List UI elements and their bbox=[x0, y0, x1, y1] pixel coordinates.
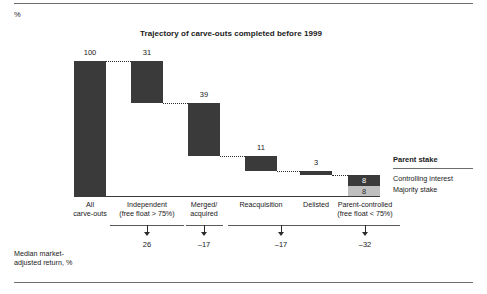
legend-title: Parent stake bbox=[393, 155, 438, 164]
bar-all-carve-outs bbox=[74, 61, 106, 196]
category-label-line1: Reacquisition bbox=[228, 201, 294, 210]
category-label-line2: (free float > 75%) bbox=[108, 210, 186, 219]
legend-rule bbox=[393, 168, 473, 169]
bar-value-independent: 31 bbox=[131, 48, 163, 57]
return-arrow-head-merged-acquired bbox=[201, 232, 207, 236]
return-value-independent: 26 bbox=[127, 240, 167, 249]
return-caption-line1: Median market- bbox=[14, 249, 104, 258]
connector-merged-to-reacquisition bbox=[220, 156, 245, 157]
category-label-line2: (free float < 75%) bbox=[326, 210, 404, 219]
return-arrow-head-independent bbox=[144, 232, 150, 236]
category-label-reacquisition: Reacquisition bbox=[228, 201, 294, 210]
bar-reacquisition bbox=[245, 156, 277, 171]
category-label-independent: Independent (free float > 75%) bbox=[108, 201, 186, 218]
bar-value-reacquisition: 11 bbox=[245, 143, 277, 152]
connector-all-to-independent bbox=[106, 61, 131, 62]
return-value-reacquisition-delisted: –17 bbox=[261, 240, 301, 249]
return-value-parent-controlled: –32 bbox=[345, 240, 385, 249]
bar-value-majority-stake: 8 bbox=[348, 187, 380, 196]
bar-merged-acquired bbox=[188, 103, 220, 156]
connector-reacquisition-to-delisted bbox=[277, 171, 300, 172]
category-label-line2: acquired bbox=[178, 210, 230, 219]
return-value-merged-acquired: –17 bbox=[184, 240, 224, 249]
bar-value-all-carve-outs: 100 bbox=[74, 48, 106, 57]
bar-value-delisted: 3 bbox=[300, 158, 332, 167]
connector-delisted-to-parent-controlled bbox=[332, 175, 348, 176]
bar-value-controlling-interest: 8 bbox=[348, 176, 380, 185]
bar-value-merged-acquired: 39 bbox=[188, 90, 220, 99]
chart-baseline bbox=[74, 196, 380, 197]
exhibit-figure: % Trajectory of carve-outs completed bef… bbox=[0, 0, 487, 294]
category-label-merged-acquired: Merged/ acquired bbox=[178, 201, 230, 218]
bar-delisted bbox=[300, 171, 332, 175]
legend-item-majority-stake: Majority stake bbox=[393, 185, 437, 194]
return-caption-line2: adjusted return, % bbox=[14, 258, 104, 267]
return-arrow-head-reacquisition-delisted bbox=[278, 232, 284, 236]
connector-independent-to-merged bbox=[163, 103, 188, 104]
legend-item-controlling-interest: Controlling interest bbox=[393, 174, 453, 183]
bar-independent bbox=[131, 61, 163, 103]
category-label-parent-controlled: Parent-controlled (free float < 75%) bbox=[326, 201, 404, 218]
return-arrow-head-parent-controlled bbox=[362, 232, 368, 236]
return-caption: Median market- adjusted return, % bbox=[14, 249, 104, 267]
